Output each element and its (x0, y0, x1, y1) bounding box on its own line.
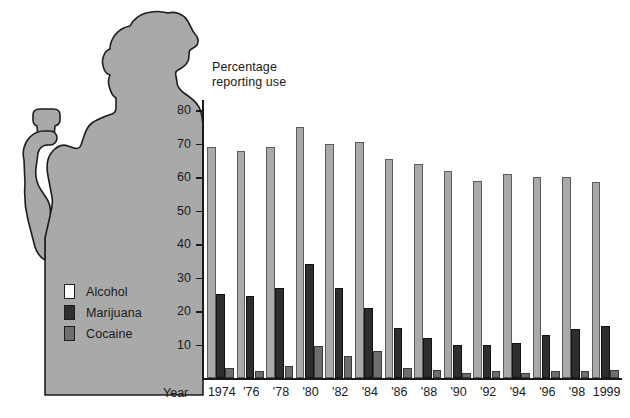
bar-marijuana-1974[interactable] (216, 294, 225, 378)
bar-marijuana-84[interactable] (364, 308, 373, 378)
bar-cocaine-1974[interactable] (225, 368, 234, 378)
bar-cocaine-76[interactable] (255, 371, 264, 378)
bar-marijuana-94[interactable] (512, 343, 521, 378)
bar-cocaine-92[interactable] (492, 371, 501, 378)
bar-cocaine-82[interactable] (344, 356, 353, 378)
bar-marijuana-76[interactable] (246, 296, 255, 378)
bar-cocaine-78[interactable] (285, 366, 294, 378)
bar-marijuana-82[interactable] (335, 288, 344, 378)
legend-item-alcohol[interactable]: Alcohol (64, 281, 142, 302)
bar-cocaine-86[interactable] (403, 368, 412, 378)
legend-item-cocaine[interactable]: Cocaine (64, 323, 142, 344)
bar-chart: Percentage reporting use Year 1020304050… (0, 0, 630, 418)
bar-cocaine-84[interactable] (373, 351, 382, 378)
legend-swatch-cocaine (64, 326, 75, 341)
bar-marijuana-88[interactable] (423, 338, 432, 378)
bar-alcohol-84[interactable] (355, 142, 364, 378)
bar-alcohol-98[interactable] (562, 177, 571, 378)
bar-marijuana-92[interactable] (483, 345, 492, 378)
chart-legend: AlcoholMarijuanaCocaine (64, 281, 142, 344)
bar-cocaine-1999[interactable] (610, 370, 619, 378)
bar-marijuana-1999[interactable] (601, 326, 610, 378)
bar-marijuana-98[interactable] (571, 329, 580, 378)
legend-label-marijuana: Marijuana (86, 306, 142, 320)
bar-marijuana-80[interactable] (305, 264, 314, 378)
legend-label-alcohol: Alcohol (86, 285, 128, 299)
bar-cocaine-90[interactable] (462, 373, 471, 378)
legend-swatch-marijuana (64, 305, 75, 320)
bar-alcohol-96[interactable] (533, 177, 542, 378)
bar-marijuana-90[interactable] (453, 345, 462, 378)
bar-alcohol-86[interactable] (385, 159, 394, 378)
bar-alcohol-88[interactable] (414, 164, 423, 378)
bar-alcohol-90[interactable] (444, 171, 453, 378)
bar-marijuana-96[interactable] (542, 335, 551, 378)
legend-item-marijuana[interactable]: Marijuana (64, 302, 142, 323)
bar-cocaine-96[interactable] (551, 371, 560, 378)
bar-alcohol-80[interactable] (296, 127, 305, 378)
bar-alcohol-82[interactable] (325, 144, 334, 378)
bar-alcohol-1999[interactable] (592, 182, 601, 378)
bar-alcohol-92[interactable] (473, 181, 482, 378)
bar-alcohol-76[interactable] (237, 151, 246, 378)
bar-alcohol-78[interactable] (266, 147, 275, 378)
bar-cocaine-80[interactable] (314, 346, 323, 378)
bar-alcohol-1974[interactable] (207, 147, 216, 378)
bar-cocaine-88[interactable] (433, 370, 442, 378)
bars-layer (0, 0, 630, 418)
legend-swatch-alcohol (64, 284, 75, 299)
bar-cocaine-98[interactable] (581, 371, 590, 378)
bar-marijuana-78[interactable] (275, 288, 284, 378)
bar-marijuana-86[interactable] (394, 328, 403, 378)
legend-label-cocaine: Cocaine (86, 327, 133, 341)
chart-page: Percentage reporting use Year 1020304050… (0, 0, 630, 418)
bar-alcohol-94[interactable] (503, 174, 512, 378)
bar-cocaine-94[interactable] (521, 373, 530, 378)
